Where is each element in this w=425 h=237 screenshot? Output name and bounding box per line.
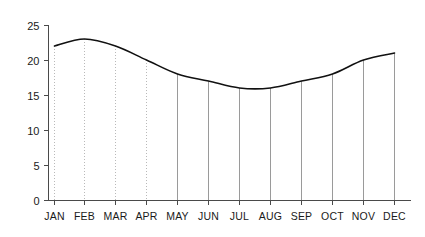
x-tick-label-jun: JUN bbox=[198, 210, 219, 222]
x-tick-label-apr: APR bbox=[135, 210, 157, 222]
x-tick-label-dec: DEC bbox=[383, 210, 406, 222]
x-tick-label-mar: MAR bbox=[104, 210, 128, 222]
x-tick-group bbox=[55, 201, 395, 206]
y-tick-label-15: 15 bbox=[27, 90, 39, 102]
x-tick-label-group: JANFEBMARAPRMAYJUNJULAUGSEPOCTNOVDEC bbox=[44, 210, 406, 222]
y-tick-label-10: 10 bbox=[27, 125, 39, 137]
x-tick-label-sep: SEP bbox=[291, 210, 313, 222]
data-series-line bbox=[55, 39, 395, 89]
gridline-group bbox=[55, 39, 395, 201]
line-chart: 0510152025 JANFEBMARAPRMAYJUNJULAUGSEPOC… bbox=[0, 0, 425, 237]
y-tick-label-0: 0 bbox=[33, 195, 39, 207]
x-tick-label-aug: AUG bbox=[259, 210, 282, 222]
x-tick-label-jul: JUL bbox=[230, 210, 249, 222]
x-tick-label-oct: OCT bbox=[321, 210, 344, 222]
y-tick-group bbox=[44, 26, 49, 201]
y-tick-label-25: 25 bbox=[27, 20, 39, 32]
x-tick-label-nov: NOV bbox=[352, 210, 375, 222]
axis-group bbox=[48, 25, 411, 201]
x-tick-label-feb: FEB bbox=[74, 210, 95, 222]
chart-canvas: 0510152025 JANFEBMARAPRMAYJUNJULAUGSEPOC… bbox=[0, 0, 425, 237]
y-tick-label-group: 0510152025 bbox=[27, 20, 39, 207]
x-tick-label-jan: JAN bbox=[44, 210, 64, 222]
x-tick-label-may: MAY bbox=[166, 210, 189, 222]
y-tick-label-5: 5 bbox=[33, 160, 39, 172]
y-tick-label-20: 20 bbox=[27, 55, 39, 67]
